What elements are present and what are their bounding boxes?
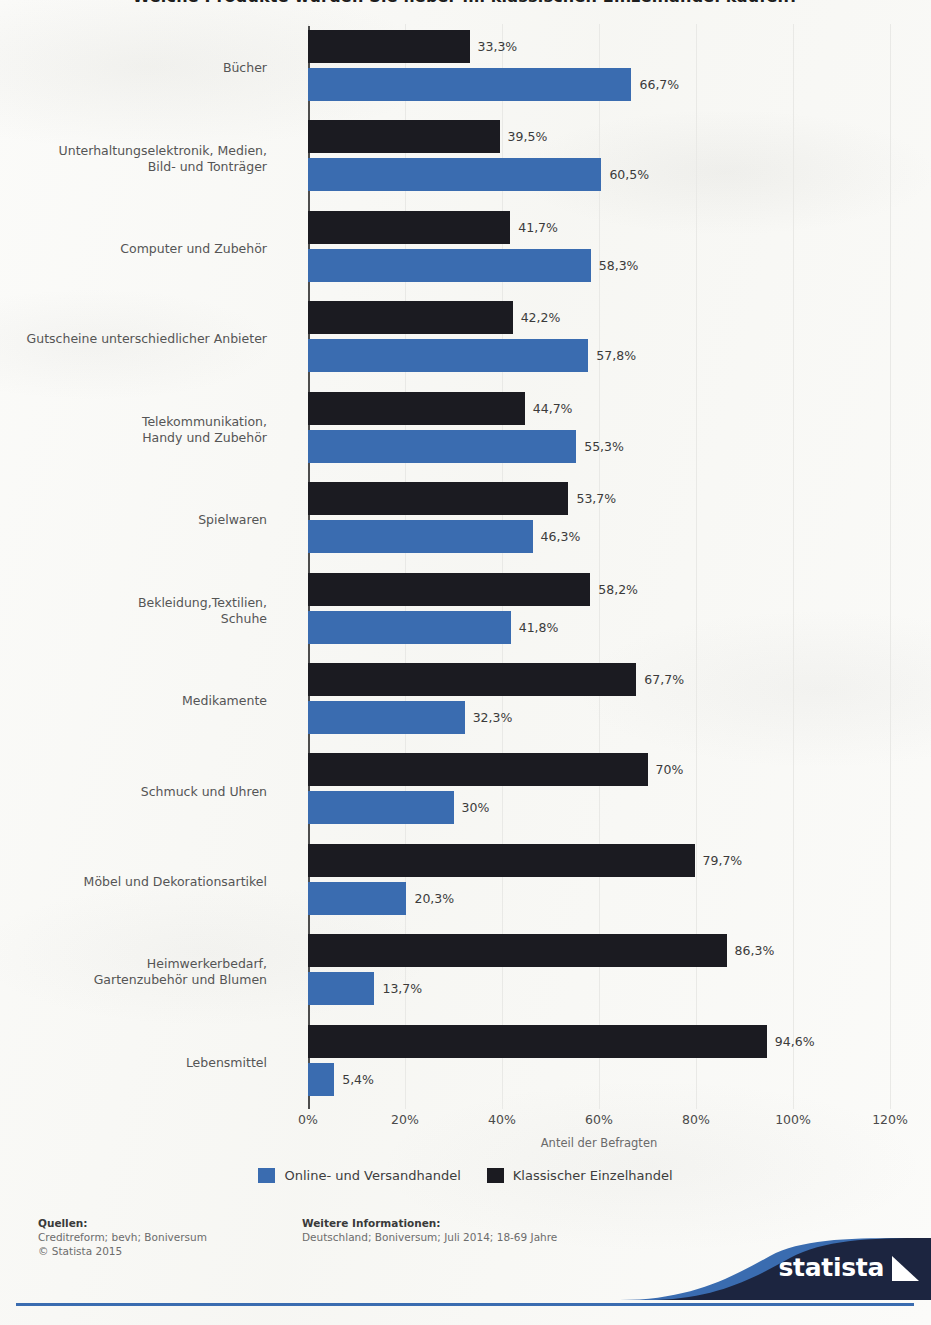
bar-row: Spielwaren53,7%46,3% — [0, 476, 931, 566]
bar-row: Lebensmittel94,6%5,4% — [0, 1019, 931, 1109]
bar-value-label: 60,5% — [609, 167, 649, 182]
category-label: Lebensmittel — [0, 1055, 267, 1071]
bar-row: Telekommunikation,Handy und Zubehör44,7%… — [0, 386, 931, 476]
legend-label: Klassischer Einzelhandel — [513, 1168, 673, 1183]
x-axis-title: Anteil der Befragten — [308, 1136, 890, 1150]
bar-row: Möbel und Dekorationsartikel79,7%20,3% — [0, 838, 931, 928]
legend-swatch-icon — [258, 1168, 275, 1183]
bar-value-label: 44,7% — [533, 401, 573, 416]
bar-value-label: 55,3% — [584, 439, 624, 454]
bar-value-label: 70% — [656, 762, 684, 777]
sources-heading: Quellen: — [38, 1216, 207, 1230]
bar-blue — [308, 339, 588, 372]
bar-value-label: 20,3% — [414, 891, 454, 906]
brand-logo-mark-icon — [892, 1256, 919, 1281]
x-tick-label: 100% — [753, 1112, 833, 1127]
bar-black — [308, 753, 648, 786]
category-label: Heimwerkerbedarf,Gartenzubehör und Blume… — [0, 956, 267, 988]
bar-row: Gutscheine unterschiedlicher Anbieter42,… — [0, 295, 931, 385]
footer-rule — [16, 1303, 914, 1306]
statista-chart-sheet: Welche Produkte würden Sie lieber im kla… — [0, 0, 931, 1325]
bar-blue — [308, 68, 631, 101]
bar-blue — [308, 791, 454, 824]
x-tick-label: 120% — [850, 1112, 930, 1127]
sources-block: Quellen: Creditreform; bevh; Boniversum … — [38, 1216, 207, 1258]
category-label: Medikamente — [0, 693, 267, 709]
chart-title-strip: Welche Produkte würden Sie lieber im kla… — [0, 0, 931, 9]
bar-row: Heimwerkerbedarf,Gartenzubehör und Blume… — [0, 928, 931, 1018]
bar-black — [308, 211, 510, 244]
bar-value-label: 53,7% — [576, 491, 616, 506]
bar-row: Bekleidung,Textilien,Schuhe58,2%41,8% — [0, 567, 931, 657]
category-label: Unterhaltungselektronik, Medien,Bild- un… — [0, 143, 267, 175]
category-label: Telekommunikation,Handy und Zubehör — [0, 414, 267, 446]
bar-chart: Bücher33,3%66,7%Unterhaltungselektronik,… — [0, 24, 931, 1109]
bar-blue — [308, 701, 465, 734]
bar-value-label: 58,2% — [598, 582, 638, 597]
bar-value-label: 41,8% — [519, 620, 559, 635]
more-info-line-1: Deutschland; Boniversum; Juli 2014; 18-6… — [302, 1230, 557, 1244]
legend-swatch-icon — [487, 1168, 504, 1183]
bar-row: Computer und Zubehör41,7%58,3% — [0, 205, 931, 295]
bar-value-label: 13,7% — [382, 981, 422, 996]
x-axis-ticks: 0%20%40%60%80%100%120% — [0, 1112, 931, 1132]
legend-item: Klassischer Einzelhandel — [487, 1168, 673, 1183]
bar-row: Schmuck und Uhren70%30% — [0, 747, 931, 837]
bar-value-label: 58,3% — [599, 258, 639, 273]
bar-value-label: 57,8% — [596, 348, 636, 363]
x-tick-label: 40% — [462, 1112, 542, 1127]
more-info-block: Weitere Informationen: Deutschland; Boni… — [302, 1216, 557, 1244]
legend-label: Online- und Versandhandel — [284, 1168, 460, 1183]
x-tick-label: 20% — [365, 1112, 445, 1127]
bar-blue — [308, 158, 601, 191]
statista-logo: statista — [620, 1238, 931, 1300]
bar-blue — [308, 1063, 334, 1096]
sources-line-1: Creditreform; bevh; Boniversum — [38, 1230, 207, 1244]
bar-value-label: 33,3% — [478, 39, 518, 54]
sources-line-2: © Statista 2015 — [38, 1244, 207, 1258]
category-label: Bücher — [0, 60, 267, 76]
brand-swoosh-icon — [620, 1238, 931, 1300]
bar-value-label: 94,6% — [775, 1034, 815, 1049]
category-label: Computer und Zubehör — [0, 241, 267, 257]
bar-value-label: 32,3% — [473, 710, 513, 725]
x-tick-label: 60% — [559, 1112, 639, 1127]
bar-value-label: 42,2% — [521, 310, 561, 325]
bar-value-label: 79,7% — [703, 853, 743, 868]
bar-black — [308, 573, 590, 606]
bar-blue — [308, 520, 533, 553]
x-tick-label: 80% — [656, 1112, 736, 1127]
bar-blue — [308, 611, 511, 644]
bar-black — [308, 1025, 767, 1058]
category-label: Möbel und Dekorationsartikel — [0, 874, 267, 890]
bar-black — [308, 934, 727, 967]
bar-value-label: 67,7% — [644, 672, 684, 687]
bar-value-label: 66,7% — [639, 77, 679, 92]
brand-wordmark: statista — [778, 1253, 884, 1282]
x-tick-label: 0% — [268, 1112, 348, 1127]
bar-value-label: 46,3% — [541, 529, 581, 544]
bar-blue — [308, 430, 576, 463]
bar-black — [308, 392, 525, 425]
bar-row: Unterhaltungselektronik, Medien,Bild- un… — [0, 114, 931, 204]
bar-black — [308, 663, 636, 696]
bar-black — [308, 30, 470, 63]
bar-black — [308, 844, 695, 877]
category-label: Bekleidung,Textilien,Schuhe — [0, 595, 267, 627]
bar-row: Medikamente67,7%32,3% — [0, 657, 931, 747]
bar-blue — [308, 249, 591, 282]
more-info-heading: Weitere Informationen: — [302, 1216, 557, 1230]
page-title: Welche Produkte würden Sie lieber im kla… — [0, 0, 931, 6]
category-label: Spielwaren — [0, 512, 267, 528]
legend-item: Online- und Versandhandel — [258, 1168, 460, 1183]
bar-value-label: 86,3% — [735, 943, 775, 958]
bar-value-label: 41,7% — [518, 220, 558, 235]
bar-black — [308, 482, 568, 515]
bar-value-label: 39,5% — [508, 129, 548, 144]
bar-black — [308, 120, 500, 153]
category-label: Schmuck und Uhren — [0, 784, 267, 800]
bar-blue — [308, 882, 406, 915]
category-label: Gutscheine unterschiedlicher Anbieter — [0, 331, 267, 347]
bar-black — [308, 301, 513, 334]
bar-blue — [308, 972, 374, 1005]
